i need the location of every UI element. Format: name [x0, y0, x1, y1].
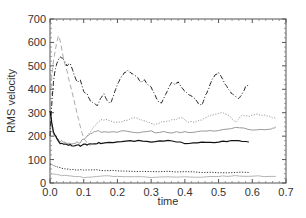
plot-frame	[50, 19, 286, 183]
line-chart: 0100200300400500600700 0.00.10.20.30.40.…	[0, 0, 306, 218]
x-axis-title: time	[158, 195, 179, 207]
y-tick-label: 300	[28, 107, 46, 119]
x-tick-label: 0.0	[42, 186, 57, 198]
y-tick-label: 200	[28, 130, 46, 142]
x-tick-label: 0.7	[278, 186, 293, 198]
y-tick-label: 500	[28, 60, 46, 72]
y-tick-labels: 0100200300400500600700	[28, 13, 46, 189]
x-tick-label: 0.4	[177, 186, 192, 198]
x-tick-label: 0.1	[76, 186, 91, 198]
x-tick-label: 0.5	[211, 186, 226, 198]
x-tick-label: 0.3	[143, 186, 158, 198]
y-tick-label: 600	[28, 36, 46, 48]
y-axis-title: RMS velocity	[5, 68, 17, 133]
y-tick-label: 100	[28, 154, 46, 166]
y-tick-label: 700	[28, 13, 46, 25]
y-tick-label: 400	[28, 83, 46, 95]
x-tick-label: 0.6	[245, 186, 260, 198]
x-tick-label: 0.2	[110, 186, 125, 198]
